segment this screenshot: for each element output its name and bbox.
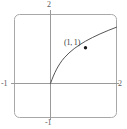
y-axis-tick-label-top: 2 <box>47 1 51 9</box>
point-annotation-label: (1, 1) <box>64 39 80 47</box>
plot-frame <box>15 15 117 118</box>
math-plot-figure: 2 -1 -1 2 (1, 1) <box>0 0 127 129</box>
plot-canvas <box>0 0 127 129</box>
point-marker-1-1 <box>84 46 87 49</box>
y-axis-tick-label-bottom: -1 <box>45 119 51 127</box>
function-curve <box>51 27 117 83</box>
x-axis-tick-label-right: 2 <box>118 80 122 88</box>
x-axis-tick-label-left: -1 <box>1 80 7 88</box>
